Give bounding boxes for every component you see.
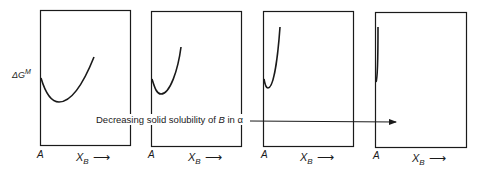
panel-1-origin-label: A [37,149,44,160]
panel-2-x-axis-label: XB⟶ [188,150,222,166]
panel-1-frame [41,11,131,146]
panel-1-curve [41,57,94,102]
y-axis-label-main: ΔG [12,70,25,80]
panel-1-x-axis-label: XB⟶ [76,150,110,166]
right-arrow-icon: ⟶ [93,150,110,164]
solubility-arrow [250,121,396,122]
panel-3-origin-label: A [261,149,268,160]
panel-3-frame [264,12,354,147]
x-label-sub: B [83,157,88,166]
panel-4-x-axis-label: XB⟶ [412,151,446,167]
solubility-caption: Decreasing solid solubility of B in α [94,114,245,125]
y-axis-label: ΔGM [12,68,31,80]
panel-4-curve [376,27,378,82]
panel-4-origin-label: A [373,150,380,161]
panel-2-frame [152,12,242,147]
x-label-sub: B [419,158,424,167]
free-energy-diagram [0,0,480,174]
panel-3-x-axis-label: XB⟶ [300,150,334,166]
right-arrow-icon: ⟶ [429,151,446,165]
caption-phase: α [238,114,244,125]
panel-2-curve [152,47,181,94]
panel-3-curve [264,27,280,88]
caption-prefix: Decreasing solid solubility of [96,114,219,125]
x-label-sub: B [307,157,312,166]
y-axis-label-sup: M [25,68,31,75]
right-arrow-icon: ⟶ [205,150,222,164]
panel-2-origin-label: A [148,149,155,160]
panel-4-frame [376,13,467,148]
right-arrow-icon: ⟶ [317,150,334,164]
caption-mid: in [225,114,238,125]
x-label-sub: B [195,157,200,166]
